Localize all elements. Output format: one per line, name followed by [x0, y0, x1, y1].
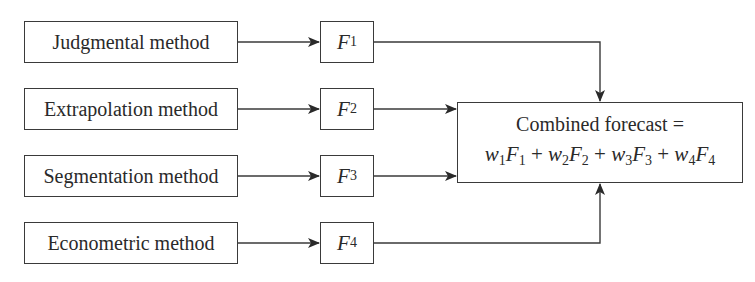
- forecast-var: F: [337, 164, 350, 189]
- forecast-var: F: [337, 97, 350, 122]
- forecast-sub: 3: [350, 168, 357, 184]
- forecast-sub: 1: [350, 34, 357, 50]
- arrow-f1-to-combined: [374, 42, 600, 101]
- combined-forecast-formula: w1F1 + w2F2 + w3F3 + w4F4: [485, 139, 715, 176]
- forecast-sub: 4: [350, 235, 357, 251]
- forecast-sub: 2: [350, 101, 357, 117]
- method-label: Econometric method: [47, 232, 214, 255]
- forecast-var: F: [337, 30, 350, 55]
- forecast-f2-box: F2: [320, 88, 374, 130]
- judgmental-method-box: Judgmental method: [24, 21, 238, 63]
- method-label: Segmentation method: [44, 165, 219, 188]
- forecast-f1-box: F1: [320, 21, 374, 63]
- econometric-method-box: Econometric method: [24, 222, 238, 264]
- segmentation-method-box: Segmentation method: [24, 155, 238, 197]
- extrapolation-method-box: Extrapolation method: [24, 88, 238, 130]
- combined-forecast-box: Combined forecast = w1F1 + w2F2 + w3F3 +…: [457, 102, 743, 183]
- arrow-f4-to-combined: [374, 184, 600, 243]
- method-label: Judgmental method: [52, 31, 209, 54]
- forecast-var: F: [337, 231, 350, 256]
- combined-forecast-title: Combined forecast =: [516, 109, 684, 139]
- forecast-f3-box: F3: [320, 155, 374, 197]
- method-label: Extrapolation method: [44, 98, 218, 121]
- forecast-f4-box: F4: [320, 222, 374, 264]
